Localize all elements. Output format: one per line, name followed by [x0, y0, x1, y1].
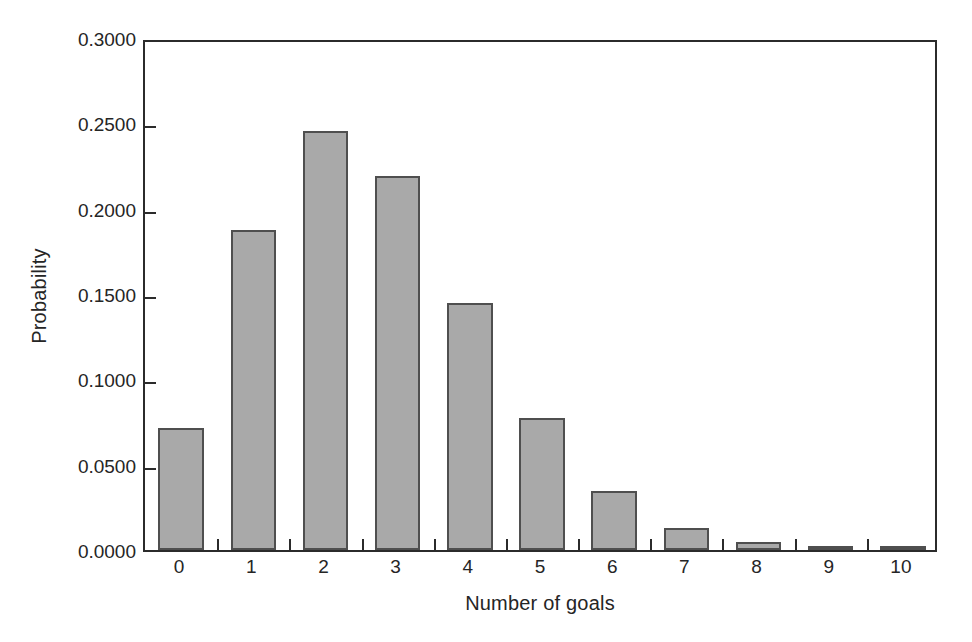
y-tick-label: 0.1000	[52, 370, 136, 392]
x-tick-label: 9	[794, 556, 864, 578]
bar	[519, 418, 564, 550]
y-tick-label: 0.0000	[52, 541, 136, 563]
x-tick-mark	[578, 539, 580, 550]
bar	[447, 303, 492, 550]
y-tick-label: 0.2000	[52, 200, 136, 222]
y-tick-label: 0.1500	[52, 285, 136, 307]
x-tick-mark	[434, 539, 436, 550]
x-tick-label: 5	[505, 556, 575, 578]
y-tick-label: 0.0500	[52, 456, 136, 478]
x-tick-label: 8	[722, 556, 792, 578]
x-tick-mark	[506, 539, 508, 550]
x-tick-label: 0	[144, 556, 214, 578]
x-axis-tick-labels: 012345678910	[143, 556, 937, 586]
x-tick-label: 2	[288, 556, 358, 578]
bar	[303, 131, 348, 550]
y-tick-label: 0.3000	[52, 29, 136, 51]
x-tick-mark	[722, 539, 724, 550]
x-tick-label: 6	[577, 556, 647, 578]
x-tick-label: 10	[866, 556, 936, 578]
y-axis-title: Probability	[26, 40, 52, 552]
bar	[808, 546, 853, 550]
x-tick-mark	[362, 539, 364, 550]
x-tick-mark	[217, 539, 219, 550]
x-axis-title: Number of goals	[143, 592, 937, 615]
bar	[375, 176, 420, 550]
y-tick-mark	[145, 212, 156, 214]
y-tick-mark	[145, 297, 156, 299]
y-tick-mark	[145, 126, 156, 128]
y-tick-mark	[145, 468, 156, 470]
x-tick-label: 3	[361, 556, 431, 578]
plot-area	[143, 40, 937, 552]
x-tick-mark	[289, 539, 291, 550]
chart-figure: Probability 0.00000.05000.10000.15000.20…	[0, 0, 972, 642]
x-tick-label: 7	[649, 556, 719, 578]
x-tick-mark	[867, 539, 869, 550]
y-axis-tick-labels: 0.00000.05000.10000.15000.20000.25000.30…	[52, 40, 136, 552]
x-tick-label: 1	[216, 556, 286, 578]
bar	[231, 230, 276, 550]
x-tick-mark	[650, 539, 652, 550]
y-tick-mark	[145, 382, 156, 384]
plot-inner	[145, 42, 935, 550]
bar	[158, 428, 203, 550]
bar	[591, 491, 636, 550]
bar	[880, 546, 925, 550]
x-tick-label: 4	[433, 556, 503, 578]
bar	[664, 528, 709, 550]
y-tick-label: 0.2500	[52, 114, 136, 136]
x-tick-mark	[795, 539, 797, 550]
bar	[736, 542, 781, 550]
